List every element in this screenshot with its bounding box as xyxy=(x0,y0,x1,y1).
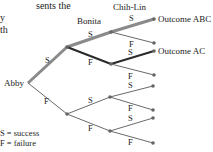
label-fs-f: F xyxy=(128,103,133,113)
label-bf-f: F xyxy=(88,123,93,133)
root-abby: Abby xyxy=(4,78,24,88)
label-sf-s: S xyxy=(128,47,133,57)
outcome-ac: Outcome AC xyxy=(158,46,205,56)
intro-line-1: sents the xyxy=(36,0,71,11)
label-abby-s: S xyxy=(45,55,50,65)
header-chihlin: Chih-Lin xyxy=(113,2,146,12)
intro-line-3: th xyxy=(0,24,8,35)
label-fs-s: S xyxy=(128,80,133,90)
label-abby-f: F xyxy=(44,96,49,106)
outcome-abc: Outcome ABC xyxy=(158,14,211,24)
probability-tree: sents the y th Bonita Chih-Lin S F S F S… xyxy=(0,0,213,152)
label-bs-f: F xyxy=(88,57,93,67)
header-bonita: Bonita xyxy=(77,16,101,26)
label-bs-s: S xyxy=(88,29,93,39)
label-ff-s: S xyxy=(128,113,133,123)
label-ff-f: F xyxy=(128,137,133,147)
intro-line-2: y xyxy=(0,12,5,23)
nodes xyxy=(65,17,156,145)
label-ss-s: S xyxy=(129,13,134,23)
legend-success: S = success xyxy=(0,128,39,138)
label-bf-s: S xyxy=(88,95,93,105)
legend-failure: F = failure xyxy=(0,138,36,148)
edge-abby-s xyxy=(28,47,67,83)
